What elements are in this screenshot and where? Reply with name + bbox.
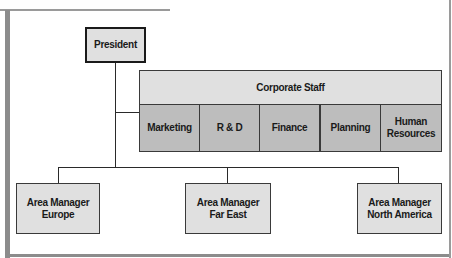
area-manager-label: Area Manager Europe: [27, 197, 90, 221]
connector-europe-drop: [58, 167, 59, 184]
dept-label: Human Resources: [387, 116, 435, 140]
frame-bottom-rule: [5, 254, 451, 257]
node-dept-rnd: R & D: [199, 104, 260, 152]
frame-left-bar: [5, 10, 10, 258]
node-dept-planning: Planning: [320, 104, 381, 152]
node-dept-marketing: Marketing: [139, 104, 200, 152]
connector-fareast-drop: [227, 167, 228, 184]
node-corporate-staff: Corporate Staff: [139, 70, 442, 105]
node-dept-finance: Finance: [259, 104, 320, 152]
connector-area-horizontal: [58, 167, 399, 168]
dept-label: Marketing: [147, 122, 192, 134]
node-dept-human-resources: Human Resources: [380, 104, 442, 152]
dept-label: Finance: [272, 122, 308, 134]
node-area-manager-europe: Area Manager Europe: [16, 183, 100, 234]
node-area-manager-far-east: Area Manager Far East: [185, 183, 271, 234]
frame-right-rule: [449, 0, 451, 258]
node-area-manager-north-america: Area Manager North America: [357, 183, 442, 234]
area-manager-label: Area Manager Far East: [197, 197, 260, 221]
connector-northamerica-drop: [398, 167, 399, 184]
dept-label: Planning: [331, 122, 371, 134]
node-president: President: [85, 27, 146, 63]
dept-label: R & D: [217, 122, 243, 134]
node-corporate-staff-label: Corporate Staff: [256, 82, 324, 94]
connector-president-trunk: [115, 62, 116, 168]
area-manager-label: Area Manager North America: [367, 197, 432, 221]
frame-top-rule: [0, 9, 170, 11]
node-president-label: President: [94, 39, 137, 51]
connector-staff-branch: [115, 112, 140, 113]
